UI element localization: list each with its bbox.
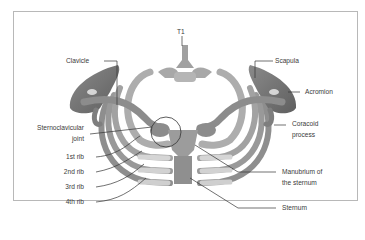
label-acromion: Acromion [305,88,333,96]
label-sternum: Sternum [282,204,307,212]
label-rib-4: 4th rib [40,198,84,206]
label-sternoclavicular-2: joint [14,135,84,143]
manubrium [168,130,198,156]
label-t1: T1 [177,28,185,36]
label-rib-1: 1st rib [40,153,84,161]
t1-vertebra [158,45,212,82]
label-coracoid-1: Coracoid [292,120,318,128]
label-rib-3: 3rd rib [40,183,84,191]
label-rib-2: 2nd rib [40,168,84,176]
label-manubrium-2: the sternum [282,179,317,187]
label-scapula: Scapula [275,57,299,65]
label-clavicle: Clavicle [66,57,89,65]
label-manubrium-1: Manubrium of [282,168,322,176]
label-coracoid-2: process [292,131,315,139]
sternum-body [174,156,192,184]
label-sternoclavicular-1: Sternoclavicular [14,124,84,132]
